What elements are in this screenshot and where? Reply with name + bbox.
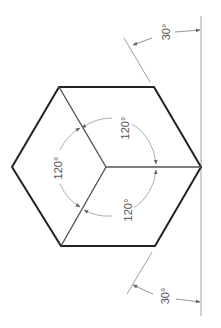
axis-to-top-left xyxy=(59,87,106,167)
arc-bottom-right xyxy=(134,170,156,208)
angle-label-top: 120° xyxy=(119,117,131,140)
arc-top xyxy=(82,118,112,128)
arc-bottom xyxy=(84,210,112,216)
lower-30-arrow-left xyxy=(133,285,153,294)
upper-30-arrow-left xyxy=(133,38,152,45)
arc-left-lower xyxy=(60,184,80,207)
angle-label-bottom: 120° xyxy=(122,199,134,222)
lower-30-arrow-right xyxy=(176,299,200,302)
isometric-diagram: 120° 120° 120° 30° 30° xyxy=(0,0,221,328)
angle-label-30-upper: 30° xyxy=(160,24,172,41)
arc-left-upper xyxy=(60,128,80,150)
upper-30-arrow-right xyxy=(175,30,200,32)
upper-30-extension-line xyxy=(124,38,150,82)
axis-to-bottom-left xyxy=(61,167,106,246)
angle-label-left: 120° xyxy=(52,157,64,180)
angle-label-30-lower: 30° xyxy=(159,288,171,305)
arc-top-right xyxy=(132,124,156,164)
